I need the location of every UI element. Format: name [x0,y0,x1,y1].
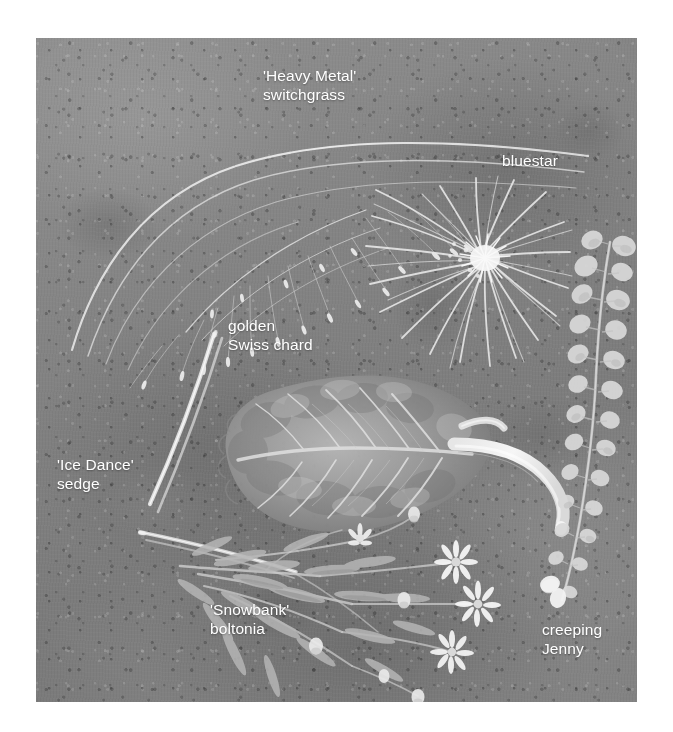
label-bluestar: bluestar [502,151,558,170]
page-root: 'Heavy Metal' switchgrass bluestar golde… [0,0,673,732]
label-ice-dance-sedge: 'Ice Dance' sedge [57,455,134,493]
label-snowbank-boltonia: 'Snowbank' boltonia [210,600,289,638]
specimen-creeping-jenny [536,228,637,608]
botanical-specimen-photo: 'Heavy Metal' switchgrass bluestar golde… [36,38,637,702]
label-golden-swiss-chard: golden Swiss chard [228,316,313,354]
label-creeping-jenny: creeping Jenny [542,620,602,658]
label-heavy-metal-switchgrass: 'Heavy Metal' switchgrass [263,66,356,104]
